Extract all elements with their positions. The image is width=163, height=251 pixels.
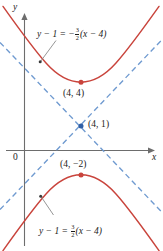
equation-positive-denominator: 2 bbox=[71, 231, 75, 239]
equation-negative-numerator: 3 bbox=[75, 27, 79, 34]
leader-line-upper bbox=[41, 41, 57, 62]
origin-label: 0 bbox=[13, 153, 18, 163]
equation-negative-rhs: (x − 4) bbox=[80, 29, 106, 39]
equation-negative-lhs: y − 1 = − bbox=[37, 29, 75, 39]
leader-arrowheads-group bbox=[39, 60, 43, 197]
hyperbola-graph-figure: y x 0 (4, 4) (4, 1) (4, −2) y − 1 = −32(… bbox=[0, 0, 163, 251]
equation-label-asymptote-negative: y − 1 = −32(x − 4) bbox=[37, 27, 106, 41]
point-label-center: (4, 1) bbox=[88, 120, 109, 130]
equation-positive-fraction: 32 bbox=[71, 224, 75, 238]
x-axis-label: x bbox=[152, 153, 156, 163]
leader-arrow-lower bbox=[39, 195, 42, 198]
leader-lines-group bbox=[41, 41, 57, 216]
equation-positive-numerator: 3 bbox=[71, 224, 75, 231]
point-center[interactable] bbox=[79, 124, 84, 129]
leader-line-lower bbox=[41, 197, 54, 216]
equation-negative-denominator: 2 bbox=[75, 34, 79, 42]
equation-negative-fraction: 32 bbox=[75, 27, 79, 41]
axes-group bbox=[6, 13, 155, 246]
point-upper-vertex[interactable] bbox=[79, 80, 84, 85]
equation-positive-rhs: (x − 4) bbox=[76, 226, 102, 236]
lower-branch-curve bbox=[3, 175, 159, 251]
equation-label-asymptote-positive: y − 1 = 32(x − 4) bbox=[39, 224, 102, 238]
leader-arrow-upper bbox=[39, 60, 42, 63]
equation-positive-lhs: y − 1 = bbox=[39, 226, 70, 236]
point-label-upper-vertex: (4, 4) bbox=[63, 89, 84, 99]
y-axis-label: y bbox=[13, 3, 17, 13]
y-axis-arrow bbox=[21, 13, 27, 20]
point-lower-vertex[interactable] bbox=[79, 172, 84, 177]
point-label-lower-vertex: (4, −2) bbox=[60, 160, 87, 170]
